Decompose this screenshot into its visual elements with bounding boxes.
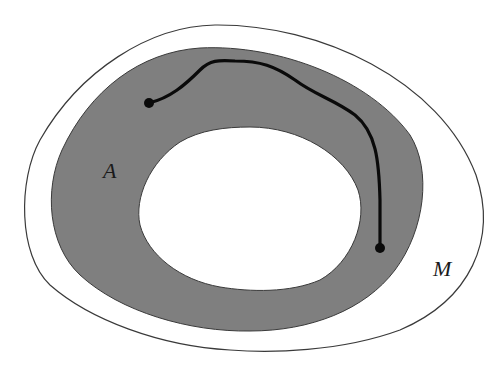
path-end-point bbox=[375, 243, 385, 253]
diagram-svg bbox=[0, 0, 496, 370]
manifold-m-label: M bbox=[433, 258, 451, 280]
diagram-canvas: A M bbox=[0, 0, 496, 370]
region-a-label: A bbox=[103, 160, 116, 182]
path-start-point bbox=[144, 98, 154, 108]
